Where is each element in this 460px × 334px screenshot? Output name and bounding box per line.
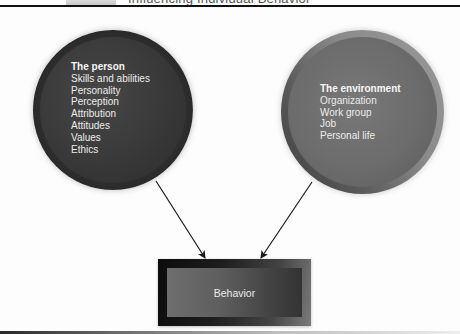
diagram-canvas: Influencing Individual Behavior The pers…: [0, 0, 460, 334]
arrow-environment-to-behavior: [261, 182, 312, 258]
behavior-box: Behavior: [158, 259, 311, 326]
behavior-label: Behavior: [214, 287, 255, 299]
behavior-box-fill: Behavior: [167, 268, 302, 317]
arrow-person-to-behavior: [156, 181, 205, 258]
